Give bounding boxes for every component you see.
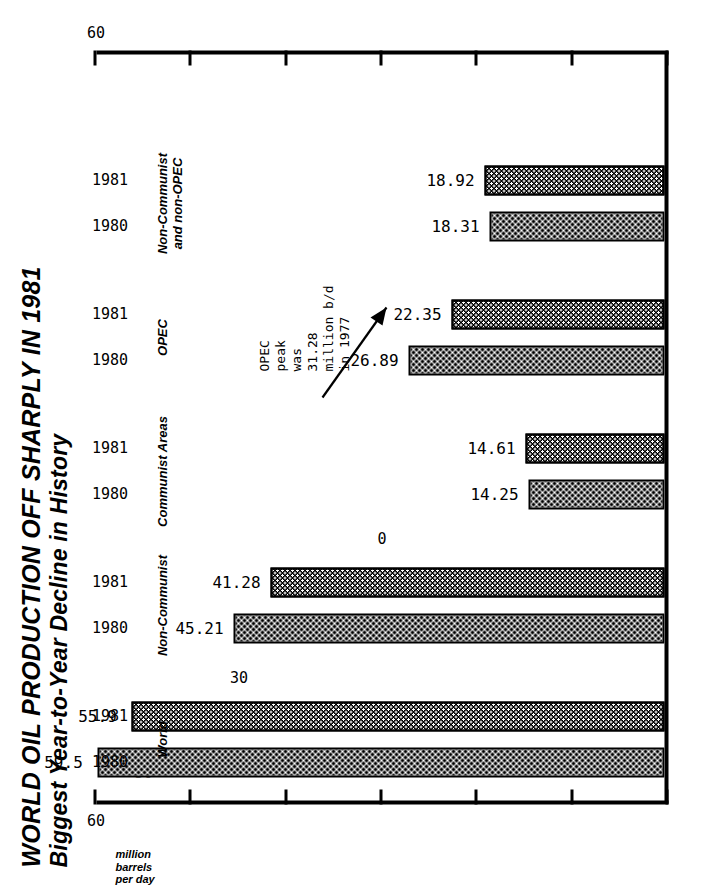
- bar-year-label: 1980: [91, 755, 127, 770]
- axis-tick: [474, 789, 477, 804]
- group-label: World: [154, 721, 719, 758]
- value-axis-top: 0102030405060: [96, 50, 668, 54]
- bar-value-label: 59.5: [44, 754, 83, 770]
- axis-tick: [188, 50, 191, 65]
- bar-year-label: 1980: [91, 353, 127, 368]
- group-label: Non-Communist and non-OPEC: [154, 152, 719, 253]
- axis-tick-label: 50: [134, 0, 152, 88]
- axis-tick-label: 60: [86, 813, 104, 828]
- axis-tick: [379, 50, 382, 65]
- chart-title-block: WORLD OIL PRODUCTION OFF SHARPLY IN 1981…: [16, 266, 72, 867]
- bar-year-label: 1980: [91, 621, 127, 636]
- bar-year-label: 1981: [91, 441, 127, 456]
- axis-tick: [379, 789, 382, 804]
- axis-tick: [188, 789, 191, 804]
- plot-area: 0102030405060 0102030405060 million barr…: [96, 51, 668, 803]
- axis-tick: [665, 789, 668, 804]
- axis-tick: [570, 789, 573, 804]
- axis-tick-label: 60: [86, 26, 104, 41]
- bar-year-label: 1981: [91, 709, 127, 724]
- bar-year-label: 1981: [91, 575, 127, 590]
- axis-tick: [570, 50, 573, 65]
- axis-unit-caption: million barrels per day: [115, 847, 154, 885]
- axis-tick: [284, 50, 287, 65]
- group-label: Non-Communist: [154, 554, 719, 655]
- group-label: OPEC: [154, 319, 719, 356]
- annotation-arrow-icon: [316, 283, 406, 403]
- bar-year-label: 1981: [91, 307, 127, 322]
- axis-tick-label: 40: [182, 0, 200, 136]
- value-axis-bottom: 0102030405060: [96, 800, 668, 804]
- group-label: Communist Areas: [154, 416, 719, 527]
- axis-tick: [474, 50, 477, 65]
- page-subtitle: Biggest Year-to-Year Decline in History: [45, 266, 72, 867]
- bar-year-label: 1980: [91, 487, 127, 502]
- bar-year-label: 1980: [91, 219, 127, 234]
- axis-tick: [284, 789, 287, 804]
- bar-year-label: 1981: [91, 173, 127, 188]
- axis-tick: [93, 789, 96, 804]
- axis-tick: [665, 50, 668, 65]
- axis-tick: [93, 50, 96, 65]
- chart-canvas: WORLD OIL PRODUCTION OFF SHARPLY IN 1981…: [0, 0, 719, 895]
- page-title: WORLD OIL PRODUCTION OFF SHARPLY IN 1981: [16, 266, 45, 867]
